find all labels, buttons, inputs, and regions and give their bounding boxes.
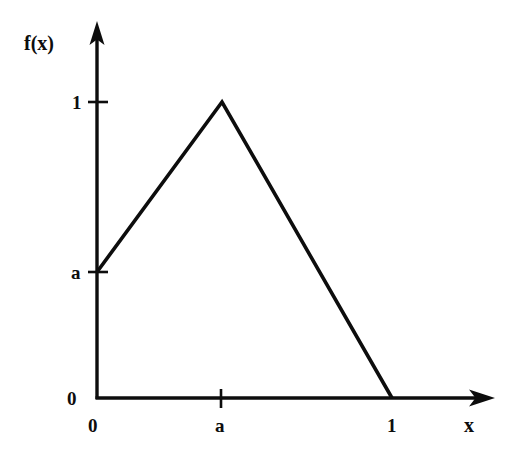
x-axis-title: x (464, 415, 474, 435)
x-tick-label-1: 1 (387, 416, 397, 435)
x-tick-label-0: 0 (88, 416, 98, 435)
plot-canvas (0, 0, 521, 453)
y-tick-label-1: 1 (72, 93, 82, 112)
y-tick-label-a: a (71, 263, 81, 282)
y-axis-title: f(x) (24, 33, 54, 53)
y-tick-label-0: 0 (67, 389, 77, 408)
x-tick-label-a: a (215, 416, 225, 435)
triangular-density-figure: f(x) 1 a 0 0 a 1 x (0, 0, 521, 453)
function-curve (97, 102, 392, 398)
